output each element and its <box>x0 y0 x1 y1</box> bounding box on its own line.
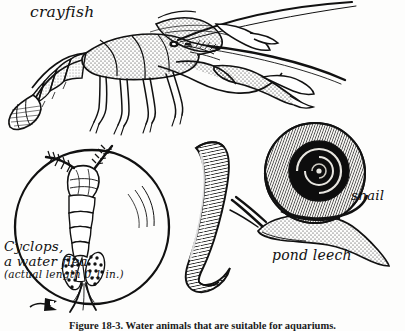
label-cyclops-line1: Cyclops, <box>4 239 124 254</box>
illustration-artwork <box>0 0 405 331</box>
label-crayfish: crayfish <box>30 4 94 21</box>
pond-leech-drawing <box>186 142 230 292</box>
figure-water-animals: crayfish snail pond leech Cyclops, a wat… <box>0 0 405 331</box>
figure-caption: Figure 18-3. Water animals that are suit… <box>0 320 405 331</box>
label-cyclops-actual-length: (actual length 0.1 in.) <box>4 269 124 281</box>
crayfish-drawing <box>9 2 356 135</box>
label-pond-leech: pond leech <box>272 248 352 264</box>
label-cyclops-line2: a water flea <box>4 254 124 269</box>
label-snail: snail <box>351 188 384 203</box>
scale-mark <box>30 298 57 311</box>
cyclops-drawing <box>15 145 169 312</box>
label-cyclops: Cyclops, a water flea (actual length 0.1… <box>4 239 124 281</box>
